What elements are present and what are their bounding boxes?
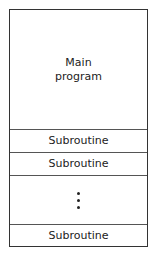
main-program-label-line2: program [55,70,102,84]
ellipsis-segment [10,176,147,224]
subroutine-segment-1: Subroutine [10,130,147,152]
vertical-ellipsis-icon [77,192,80,209]
main-program-label-line1: Main [65,56,91,70]
subroutine-segment-2: Subroutine [10,153,147,175]
subroutine-label: Subroutine [48,229,108,243]
subroutine-label: Subroutine [48,157,108,171]
main-program-segment: Main program [10,10,147,129]
subroutine-label: Subroutine [48,134,108,148]
memory-layout-box: Main program Subroutine Subroutine Subro… [9,9,148,247]
subroutine-segment-last: Subroutine [10,225,147,246]
